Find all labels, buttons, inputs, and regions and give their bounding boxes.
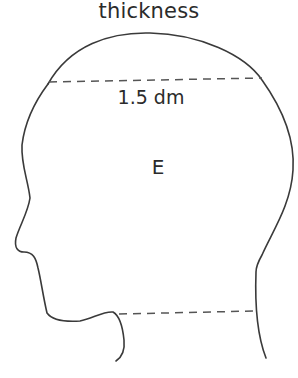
region-label-e: E xyxy=(152,155,165,179)
thickness-measurement-label: 1.5 dm xyxy=(118,86,185,108)
lower-dashed-line xyxy=(119,311,256,314)
diagram-title: thickness xyxy=(99,0,200,23)
face-profile-outline xyxy=(15,84,124,361)
head-profile-drawing xyxy=(0,0,298,378)
upper-dashed-line xyxy=(49,78,262,82)
head-diagram: thickness 1.5 dm E xyxy=(0,0,298,378)
